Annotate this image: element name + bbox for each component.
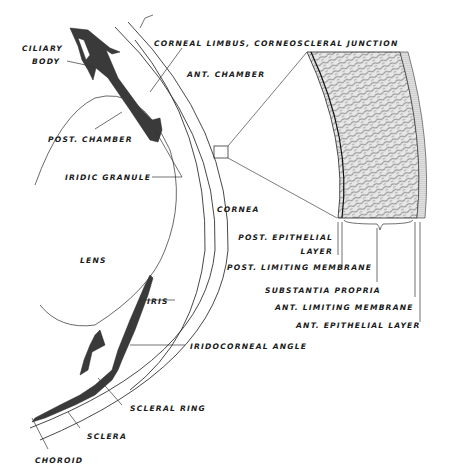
label-choroid: CHOROID [35, 456, 83, 465]
label-substantia-propria: SUBSTANTIA PROPRIA [265, 286, 381, 295]
label-post-epithelial-line2: LAYER [301, 247, 333, 256]
label-post-chamber: POST. CHAMBER [48, 135, 133, 144]
ciliary-body-shape [70, 28, 162, 142]
label-post-epithelial-line1: POST. EPITHELIAL [238, 233, 333, 242]
enlarged-cornea-section [307, 52, 427, 218]
cornea-outline [30, 22, 228, 440]
cornea-sample-box [214, 146, 228, 158]
label-sclera: SCLERA [87, 432, 127, 441]
label-scleral-ring: SCLERAL RING [130, 404, 206, 413]
label-cornea: CORNEA [217, 205, 260, 214]
label-ant-epithelial-layer: ANT. EPITHELIAL LAYER [296, 321, 421, 330]
label-ant-limiting-membrane: ANT. LIMITING MEMBRANE [275, 303, 414, 312]
label-iridic-granule: IRIDIC GRANULE [65, 173, 151, 182]
label-lens: LENS [80, 256, 107, 265]
label-corneal-limbus: CORNEAL LIMBUS, CORNEOSCLERAL JUNCTION [154, 39, 398, 48]
label-ant-chamber: ANT. CHAMBER [187, 70, 265, 79]
label-ciliary-body-line1: CILIARY [22, 44, 63, 53]
label-iris: IRIS [147, 297, 169, 306]
label-post-limiting-membrane: POST. LIMITING MEMBRANE [227, 263, 372, 272]
label-ciliary-body-line2: BODY [32, 57, 60, 66]
label-leaders [32, 15, 185, 449]
label-iridocorneal-angle: IRIDOCORNEAL ANGLE [190, 342, 307, 351]
